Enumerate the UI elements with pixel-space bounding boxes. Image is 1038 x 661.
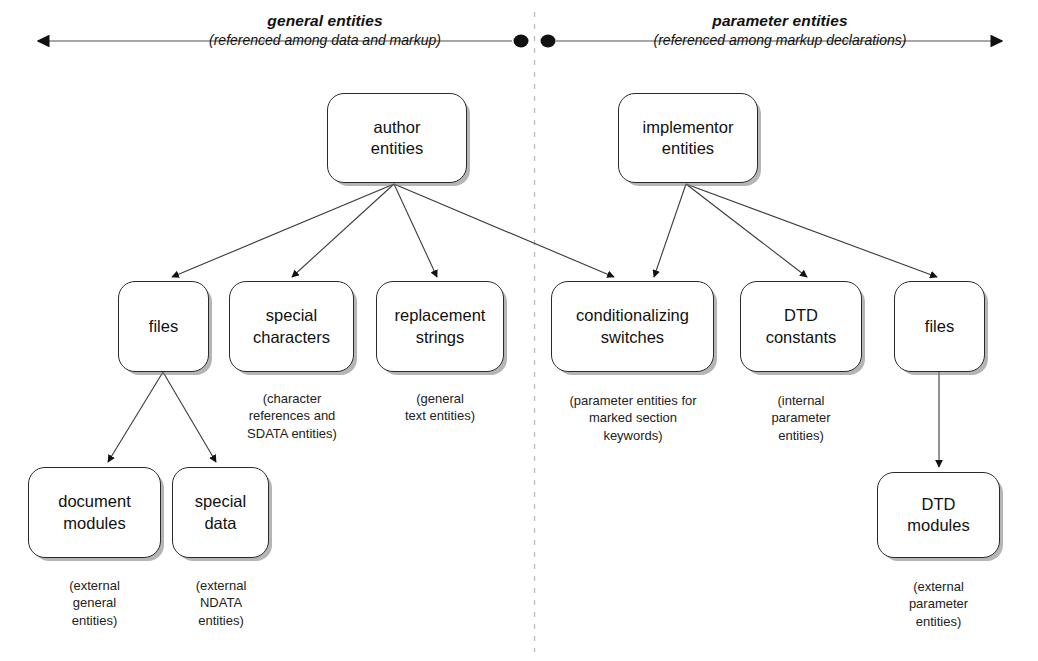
caption-replacement-strings-line2: text entities) [372, 407, 508, 424]
caption-special-characters: (character references and SDATA entities… [222, 390, 362, 442]
node-document-modules[interactable]: document modules [28, 467, 161, 558]
caption-dtd-constants-line3: entities) [737, 427, 865, 444]
caption-document-modules-line2: general [28, 594, 161, 611]
node-files-right[interactable]: files [894, 281, 985, 372]
caption-conditionalizing-switches-line1: (parameter entities for [549, 392, 717, 409]
caption-replacement-strings-line1: (general [372, 390, 508, 407]
node-dtd-constants-label: DTD constants [754, 305, 849, 347]
axis-subtitle-left: (referenced among data and markup) [160, 32, 490, 49]
node-special-data[interactable]: special data [172, 467, 269, 558]
node-dtd-constants[interactable]: DTD constants [740, 281, 862, 372]
node-document-modules-line1: document [52, 491, 136, 512]
node-author-entities-line2: entities [365, 138, 429, 159]
caption-special-data: (external NDATA entities) [166, 577, 276, 629]
node-dtd-modules[interactable]: DTD modules [877, 472, 1000, 558]
node-special-data-line2: data [189, 513, 252, 534]
caption-dtd-modules-line2: parameter [877, 595, 1000, 612]
caption-conditionalizing-switches-line3: keywords) [549, 427, 717, 444]
node-replacement-strings-line1: replacement [389, 305, 492, 326]
axis-title-right: parameter entities [600, 12, 960, 31]
caption-conditionalizing-switches: (parameter entities for marked section k… [549, 392, 717, 444]
axis-label-general-entities: general entities (referenced among data … [160, 12, 490, 49]
node-dtd-constants-line1: DTD [760, 305, 843, 326]
node-special-characters-label: special characters [241, 305, 342, 347]
node-author-entities-line1: author [365, 117, 429, 138]
node-replacement-strings[interactable]: replacement strings [376, 281, 504, 372]
node-replacement-strings-label: replacement strings [383, 305, 498, 347]
entity-taxonomy-diagram: general entities (referenced among data … [0, 0, 1038, 661]
caption-dtd-constants-line1: (internal [737, 392, 865, 409]
node-files-left[interactable]: files [118, 281, 209, 372]
node-dtd-modules-line1: DTD [901, 494, 975, 515]
node-dtd-modules-label: DTD modules [895, 494, 981, 536]
node-document-modules-line2: modules [52, 513, 136, 534]
node-conditionalizing-switches-line2: switches [570, 327, 695, 348]
node-files-left-label: files [143, 316, 184, 337]
caption-dtd-modules: (external parameter entities) [877, 578, 1000, 630]
node-author-entities[interactable]: author entities [327, 93, 467, 183]
node-conditionalizing-switches[interactable]: conditionalizing switches [551, 281, 714, 372]
caption-dtd-constants: (internal parameter entities) [737, 392, 865, 444]
node-implementor-entities-label: implementor entities [631, 117, 746, 159]
caption-special-data-line2: NDATA [166, 594, 276, 611]
node-conditionalizing-switches-label: conditionalizing switches [564, 305, 701, 347]
node-special-data-label: special data [183, 491, 258, 533]
caption-replacement-strings: (general text entities) [372, 390, 508, 425]
caption-document-modules: (external general entities) [28, 577, 161, 629]
caption-dtd-modules-line1: (external [877, 578, 1000, 595]
node-implementor-entities-line2: entities [637, 138, 740, 159]
axis-subtitle-right: (referenced among markup declarations) [600, 32, 960, 49]
edges-from-files-left [108, 372, 216, 462]
caption-conditionalizing-switches-line2: marked section [549, 409, 717, 426]
node-document-modules-label: document modules [46, 491, 142, 533]
node-implementor-entities[interactable]: implementor entities [618, 93, 758, 183]
caption-document-modules-line1: (external [28, 577, 161, 594]
edges-from-implementor-entities [654, 184, 937, 277]
node-special-characters-line2: characters [247, 327, 336, 348]
axis-title-left: general entities [160, 12, 490, 31]
caption-document-modules-line3: entities) [28, 612, 161, 629]
node-special-characters[interactable]: special characters [229, 281, 354, 372]
caption-special-data-line1: (external [166, 577, 276, 594]
node-dtd-modules-line2: modules [901, 515, 975, 536]
caption-special-characters-line1: (character [222, 390, 362, 407]
axis-label-parameter-entities: parameter entities (referenced among mar… [600, 12, 960, 49]
caption-special-characters-line3: SDATA entities) [222, 425, 362, 442]
node-conditionalizing-switches-line1: conditionalizing [570, 305, 695, 326]
edges-from-author-entities [172, 184, 614, 277]
caption-dtd-modules-line3: entities) [877, 613, 1000, 630]
node-special-data-line1: special [189, 491, 252, 512]
node-author-entities-label: author entities [359, 117, 435, 159]
node-files-right-label: files [919, 316, 960, 337]
node-special-characters-line1: special [247, 305, 336, 326]
caption-special-data-line3: entities) [166, 612, 276, 629]
node-replacement-strings-line2: strings [389, 327, 492, 348]
caption-dtd-constants-line2: parameter [737, 409, 865, 426]
node-dtd-constants-line2: constants [760, 327, 843, 348]
node-implementor-entities-line1: implementor [637, 117, 740, 138]
caption-special-characters-line2: references and [222, 407, 362, 424]
